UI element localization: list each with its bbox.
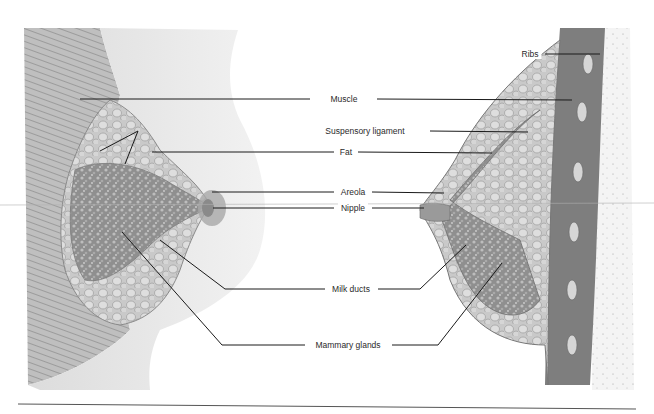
label-ribs: Ribs: [518, 49, 541, 59]
diagram-illustration: [0, 0, 654, 414]
rib-shape: [569, 222, 579, 242]
breast-anatomy-diagram: Muscle Suspensory ligament Fat Areola Ni…: [0, 0, 654, 414]
left-view-illustration: [24, 28, 265, 390]
label-nipple: Nipple: [338, 203, 368, 213]
label-areola: Areola: [338, 187, 369, 197]
rib-shape: [577, 102, 587, 122]
label-mammary-glands: Mammary glands: [312, 340, 383, 350]
label-muscle: Muscle: [328, 94, 361, 104]
rib-shape: [567, 280, 577, 300]
nipple-shape: [202, 199, 214, 217]
rib-shape: [583, 54, 593, 74]
nipple-section-shape: [420, 203, 450, 221]
label-suspensory-ligament: Suspensory ligament: [322, 126, 407, 136]
right-view-illustration: [420, 28, 634, 390]
label-milk-ducts: Milk ducts: [329, 284, 373, 294]
rib-shape: [567, 335, 577, 355]
label-fat: Fat: [337, 147, 355, 157]
rib-shape: [573, 162, 583, 182]
bottom-divider: [18, 404, 636, 409]
